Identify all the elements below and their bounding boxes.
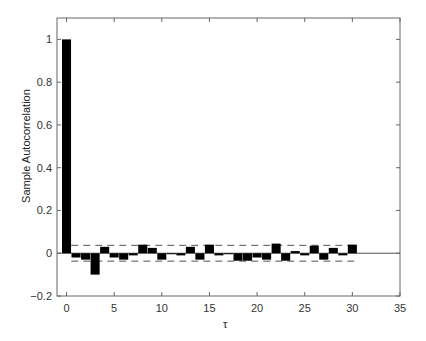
bar (100, 247, 109, 253)
x-tick-label: 15 (203, 302, 215, 314)
bar (205, 245, 214, 254)
x-tick-label: 10 (156, 302, 168, 314)
bar (72, 253, 81, 257)
y-tick-label: −0.2 (30, 290, 52, 302)
x-axis-label: τ (223, 318, 227, 330)
bar (291, 251, 300, 253)
x-tick-label: 35 (394, 302, 406, 314)
bar (300, 253, 309, 255)
bar (138, 245, 147, 254)
bar (195, 253, 204, 259)
bar (253, 253, 262, 257)
bar (167, 253, 176, 254)
bar (338, 253, 347, 255)
bar (243, 253, 252, 260)
y-tick-label: 0.2 (37, 204, 52, 216)
bar (186, 247, 195, 253)
bar (310, 246, 319, 253)
x-tick-label: 5 (111, 302, 117, 314)
y-tick-label: 0 (46, 247, 52, 259)
plot-frame (57, 18, 400, 296)
bar (234, 253, 243, 260)
y-tick-label: 0.8 (37, 76, 52, 88)
y-tick-label: 1 (46, 33, 52, 45)
x-tick-label: 0 (63, 302, 69, 314)
bar (148, 248, 157, 253)
bar (129, 253, 138, 255)
bar (224, 253, 233, 254)
bar (157, 253, 166, 259)
x-tick-label: 20 (251, 302, 263, 314)
bar (214, 253, 223, 255)
bar (119, 253, 128, 259)
x-tick-label: 30 (346, 302, 358, 314)
bar (91, 253, 100, 274)
bar (262, 253, 271, 259)
y-tick-label: 0.4 (37, 162, 52, 174)
bar (281, 253, 290, 260)
bar (272, 244, 281, 254)
autocorrelation-chart: 05101520253035−0.200.20.40.60.81 (0, 0, 426, 341)
x-tick-label: 25 (299, 302, 311, 314)
bar (319, 253, 328, 259)
bar (348, 245, 357, 254)
bar (62, 39, 71, 253)
bar (329, 248, 338, 253)
bar (81, 253, 90, 259)
bar (176, 253, 185, 255)
y-axis-label: Sample Autocorrelation (20, 86, 32, 206)
bar (110, 253, 119, 257)
y-tick-label: 0.6 (37, 119, 52, 131)
